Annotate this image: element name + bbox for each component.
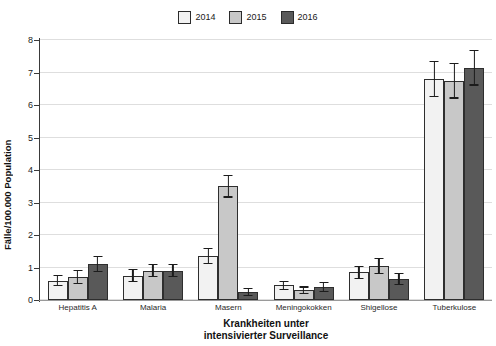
error-bar-cap-bottom [148, 276, 157, 277]
category-label: Meningokokken [266, 303, 341, 317]
error-bar-cap-bottom [204, 263, 213, 264]
bar-tuberkulose-2015[interactable] [444, 81, 464, 300]
bar-group [115, 40, 190, 300]
error-bar-cap-bottom [450, 97, 459, 98]
y-tick-mark [34, 268, 39, 269]
bar-tuberkulose-2014[interactable] [424, 79, 444, 300]
error-bar-line [97, 256, 98, 272]
error-bar [374, 258, 383, 274]
error-bar-cap-bottom [374, 273, 383, 274]
error-bar [128, 269, 137, 282]
y-axis-label: Fälle/100.000 Population [2, 120, 16, 270]
bar-slot [238, 40, 258, 300]
error-bar-cap-bottom [430, 96, 439, 97]
error-bar [470, 50, 479, 86]
error-bar [354, 266, 363, 279]
y-tick-mark [34, 73, 39, 74]
bar-tuberkulose-2016[interactable] [464, 68, 484, 300]
bar-group [266, 40, 341, 300]
plot-region [40, 40, 492, 300]
error-bar [53, 275, 62, 287]
error-bar-cap-bottom [394, 284, 403, 285]
bar-slot [198, 40, 218, 300]
legend-item-2016: 2016 [281, 11, 318, 24]
y-tick-label: 5 [11, 133, 33, 143]
error-bar-cap-top [450, 63, 459, 64]
error-bar-cap-top [319, 282, 328, 283]
y-tick-label: 4 [11, 165, 33, 175]
bar-slot [68, 40, 88, 300]
error-bar-cap-top [430, 61, 439, 62]
y-tick-label: 1 [11, 263, 33, 273]
error-bar-cap-top [394, 273, 403, 274]
error-bar-cap-top [168, 264, 177, 265]
legend-item-2014: 2014 [178, 11, 215, 24]
bar-slot [218, 40, 238, 300]
error-bar-cap-top [53, 275, 62, 276]
error-bar-cap-bottom [53, 285, 62, 286]
y-tick-label: 8 [11, 35, 33, 45]
legend-label-2014: 2014 [195, 12, 215, 22]
x-axis-label-line2: intensivierter Surveillance [40, 330, 492, 342]
y-tick-label: 7 [11, 68, 33, 78]
category-label: Hepatitis A [40, 303, 115, 317]
error-bar-cap-top [224, 175, 233, 176]
category-label: Shigellose [341, 303, 416, 317]
error-bar [224, 175, 233, 198]
legend-swatch-2015 [229, 11, 242, 24]
y-tick-mark [34, 300, 39, 301]
y-tick-mark [34, 235, 39, 236]
error-bar [319, 282, 328, 292]
error-bar-cap-top [470, 50, 479, 51]
error-bar-cap-bottom [470, 84, 479, 85]
y-tick-mark [34, 40, 39, 41]
y-tick-mark [34, 138, 39, 139]
bar-slot [274, 40, 294, 300]
bar-group [191, 40, 266, 300]
bar-slot [444, 40, 464, 300]
legend-swatch-2014 [178, 11, 191, 24]
bar-slot [369, 40, 389, 300]
error-bar-cap-bottom [354, 278, 363, 279]
error-bar-cap-top [128, 269, 137, 270]
error-bar-cap-bottom [93, 271, 102, 272]
y-tick-mark [34, 170, 39, 171]
error-bar-line [228, 175, 229, 198]
error-bar-line [434, 61, 435, 97]
error-bar-line [208, 248, 209, 264]
category-label: Masern [191, 303, 266, 317]
error-bar-cap-bottom [168, 276, 177, 277]
error-bar-cap-bottom [299, 293, 308, 294]
error-bar [430, 61, 439, 97]
bar-slot [424, 40, 444, 300]
error-bar [148, 264, 157, 277]
error-bar-cap-bottom [224, 196, 233, 197]
error-bar-line [474, 50, 475, 86]
error-bar-cap-top [244, 288, 253, 289]
bar-groups [40, 40, 492, 300]
bar-slot [143, 40, 163, 300]
error-bar [450, 63, 459, 99]
error-bar [93, 256, 102, 272]
legend-swatch-2016 [281, 11, 294, 24]
error-bar [279, 281, 288, 291]
error-bar-line [454, 63, 455, 99]
error-bar-cap-top [73, 270, 82, 271]
error-bar-cap-top [374, 258, 383, 259]
x-axis-label-line1: Krankheiten unter [40, 318, 492, 330]
error-bar-cap-bottom [73, 283, 82, 284]
bar-masern-2015[interactable] [218, 186, 238, 300]
error-bar [244, 288, 253, 296]
bar-slot [389, 40, 409, 300]
error-bar-cap-top [148, 264, 157, 265]
legend-label-2015: 2015 [246, 12, 266, 22]
x-axis-line [39, 300, 492, 301]
bar-group [40, 40, 115, 300]
error-bar-cap-top [204, 248, 213, 249]
bar-slot [464, 40, 484, 300]
error-bar-cap-bottom [244, 295, 253, 296]
bar-slot [48, 40, 68, 300]
bar-slot [349, 40, 369, 300]
y-tick-label: 0 [11, 295, 33, 305]
bar-group [417, 40, 492, 300]
